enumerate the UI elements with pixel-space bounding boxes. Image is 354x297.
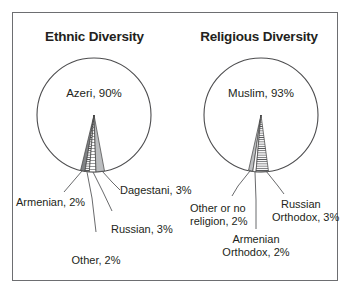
pie-label-russian-orthodox-line2: Orthodox, 3% bbox=[272, 211, 339, 223]
pie-label-azeri: Azeri, 90% bbox=[66, 87, 122, 99]
figure-canvas: Ethnic Diversity Religious Diversity bbox=[0, 0, 354, 297]
pie-label-russian: Russian, 3% bbox=[111, 223, 173, 235]
pie-label-armenian-orthodox-line2: Orthodox, 2% bbox=[222, 246, 289, 258]
pie-label-other-religion-line1: Other or no bbox=[190, 202, 246, 214]
leader-line-other bbox=[87, 172, 96, 232]
leader-line-armenian bbox=[64, 171, 82, 192]
leader-line-dagestani bbox=[102, 171, 120, 190]
leader-line-russian bbox=[93, 172, 112, 211]
leader-line-armenian-orthodox bbox=[255, 172, 256, 229]
pie-label-dagestani: Dagestani, 3% bbox=[120, 184, 192, 196]
pie-ethnic-diversity: Azeri, 90% Armenian, 2% Dagestani, 3% Ru… bbox=[16, 58, 192, 266]
pie-label-muslim: Muslim, 93% bbox=[228, 87, 294, 99]
pie-label-armenian: Armenian, 2% bbox=[16, 196, 85, 208]
pie-charts-svg: Azeri, 90% Armenian, 2% Dagestani, 3% Ru… bbox=[0, 0, 354, 297]
leader-line-other-religion bbox=[232, 171, 250, 196]
leader-line-russian-orthodox bbox=[266, 171, 284, 194]
pie-label-other-religion-line2: religion, 2% bbox=[190, 215, 248, 227]
pie-label-russian-orthodox-line1: Russian bbox=[281, 198, 321, 210]
pie-label-armenian-orthodox-line1: Armenian bbox=[232, 233, 279, 245]
pie-religious-diversity: Muslim, 93% Other or no religion, 2% Rus… bbox=[190, 58, 339, 258]
pie-label-other: Other, 2% bbox=[72, 254, 121, 266]
